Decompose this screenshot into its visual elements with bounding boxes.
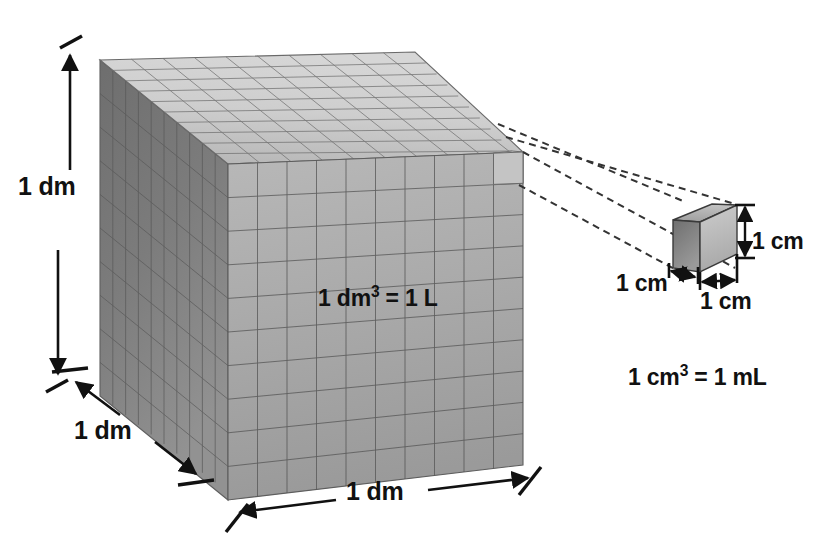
- small-cube-left-face: [673, 220, 700, 272]
- volume-equation-large-suffix: = 1 L: [379, 285, 437, 311]
- height-label-large: 1 dm: [18, 172, 76, 201]
- figure-canvas: 1 dm 1 dm 1 dm 1 dm3 = 1 L 1 cm 1 cm 1 c…: [0, 0, 839, 554]
- volume-equation-small-prefix: 1 cm: [628, 364, 680, 390]
- cube-diagram-svg: [0, 0, 839, 554]
- large-cube-group: [100, 52, 523, 500]
- callout-line-4: [519, 185, 680, 272]
- volume-equation-small-exponent: 3: [680, 362, 689, 379]
- width-label-large: 1 dm: [346, 477, 404, 506]
- height-arrow-large: [46, 36, 82, 392]
- depth-label-small: 1 cm: [616, 270, 668, 297]
- width-label-small: 1 cm: [700, 288, 752, 315]
- volume-equation-large-prefix: 1 dm: [318, 285, 371, 311]
- callout-line-2: [506, 137, 735, 204]
- corner-unit-cube: [494, 151, 524, 184]
- height-label-small: 1 cm: [752, 228, 804, 255]
- volume-equation-small: 1 cm3 = 1 mL: [628, 364, 767, 391]
- volume-equation-small-suffix: = 1 mL: [688, 364, 767, 390]
- volume-equation-large: 1 dm3 = 1 L: [318, 285, 438, 312]
- small-cube-group: [673, 204, 737, 272]
- depth-label-large: 1 dm: [74, 416, 132, 445]
